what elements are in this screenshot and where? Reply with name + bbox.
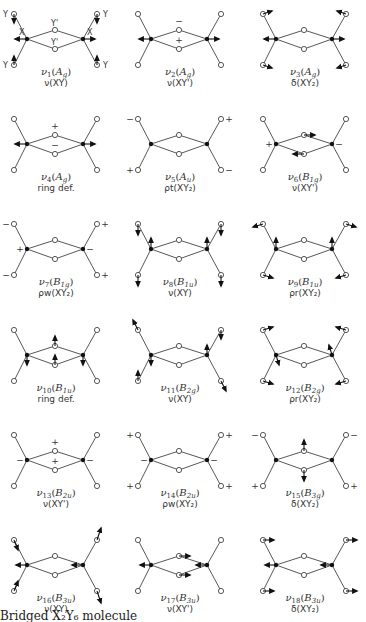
mode-description-label: ρr(XY₂)	[289, 288, 321, 298]
mode-cell-4: +−ν4(Ag)ring def.	[11, 116, 99, 193]
atom-label-x: X	[19, 28, 25, 37]
central-atom-x	[25, 247, 29, 251]
terminal-atom-y	[11, 378, 16, 383]
bond	[207, 144, 221, 170]
terminal-atom-y	[94, 483, 99, 488]
mode-cell-6: +−ν6(B1g)ν(XY')	[260, 116, 348, 193]
phase-sign: −	[350, 430, 358, 440]
bond	[179, 144, 207, 154]
bridge-atom-yprime	[176, 343, 181, 348]
bond	[207, 14, 221, 39]
bond	[304, 249, 332, 259]
phase-sign: −	[251, 430, 259, 440]
bridge-atom-yprime	[176, 256, 181, 261]
bond	[151, 144, 179, 154]
bond	[332, 224, 346, 249]
terminal-atom-y	[260, 432, 265, 437]
bond	[332, 355, 346, 381]
mode-description-label: ρw(XY₂)	[38, 288, 73, 298]
bond	[207, 119, 221, 144]
terminal-atom-y	[94, 327, 99, 332]
bond	[55, 346, 83, 355]
bond	[263, 540, 276, 565]
terminal-atom-y	[218, 537, 223, 542]
phase-sign: −	[16, 455, 24, 465]
mode-cell-11: ν11(B2g)ν(XY)	[133, 320, 226, 404]
bond	[207, 330, 221, 355]
bond	[83, 355, 97, 381]
mode-description-label: ν(XY')	[167, 604, 193, 614]
terminal-atom-y	[135, 432, 140, 437]
central-atom-x	[205, 458, 209, 462]
bridge-atom-yprime	[52, 237, 57, 242]
terminal-atom-y	[135, 537, 140, 542]
terminal-atom-y	[94, 116, 99, 121]
bridge-atom-yprime	[176, 448, 181, 453]
bridge-atom-yprime	[301, 343, 306, 348]
terminal-atom-y	[11, 116, 16, 121]
terminal-atom-y	[94, 167, 99, 172]
bond	[304, 30, 332, 39]
phase-sign: −	[175, 16, 183, 26]
bond	[138, 540, 151, 565]
bond	[27, 355, 55, 365]
bond	[207, 224, 221, 249]
bond	[55, 460, 83, 470]
phase-sign: −	[140, 455, 148, 465]
terminal-atom-y	[11, 588, 16, 593]
bond	[151, 556, 179, 565]
mode-cell-2: −+ν2(Ag)ν(XY')	[135, 11, 223, 88]
terminal-atom-y	[218, 483, 223, 488]
bridge-atom-yprime	[52, 132, 57, 137]
terminal-atom-y	[94, 378, 99, 383]
mode-cell-18: ν18(B3u)δ(XY₂)	[260, 537, 357, 614]
mode-cell-5: −++−ν5(Au)ρt(XY₂)	[126, 114, 233, 193]
bond	[138, 144, 151, 170]
bond	[179, 39, 207, 49]
phase-sign: −	[225, 165, 233, 175]
central-atom-x	[205, 142, 209, 146]
bond	[179, 460, 207, 470]
bond	[207, 249, 221, 275]
bridge-atom-yprime	[176, 151, 181, 156]
atom-label-y: Y	[102, 10, 108, 19]
bond	[55, 135, 83, 144]
bond	[55, 451, 83, 460]
bond	[83, 330, 97, 355]
bond	[55, 240, 83, 249]
mode-cell-7: −−+++−ν7(B1g)ρw(XY₂)	[2, 219, 109, 298]
terminal-atom-y	[218, 588, 223, 593]
terminal-atom-y	[135, 62, 140, 67]
phase-sign: +	[51, 437, 59, 447]
bridge-atom-yprime	[176, 132, 181, 137]
phase-sign: +	[225, 481, 233, 491]
bond	[179, 135, 207, 144]
bond	[263, 565, 276, 591]
bond	[304, 460, 332, 470]
terminal-atom-y	[11, 537, 16, 542]
mode-description-label: ρt(XY₂)	[164, 183, 196, 193]
bridge-atom-yprime	[52, 448, 57, 453]
bond	[304, 135, 332, 144]
bond	[304, 346, 332, 355]
terminal-atom-y	[11, 221, 16, 226]
terminal-atom-y	[260, 483, 265, 488]
bond	[276, 565, 304, 575]
mode-description-label: ν(XY')	[292, 183, 318, 193]
central-atom-x	[81, 247, 85, 251]
phase-sign: +	[16, 244, 24, 254]
bond	[276, 556, 304, 565]
terminal-atom-y	[94, 432, 99, 437]
bridge-atom-yprime	[301, 237, 306, 242]
phase-sign: +	[51, 456, 59, 466]
bond	[27, 565, 55, 575]
terminal-atom-y	[11, 327, 16, 332]
mode-cell-13: ++−−ν13(B2u)ν(XY')	[11, 432, 99, 509]
bond	[332, 540, 346, 565]
bond	[304, 451, 332, 460]
phase-sign: +	[101, 219, 109, 229]
bridge-atom-yprime	[301, 553, 306, 558]
terminal-atom-y	[94, 221, 99, 226]
phase-sign: −	[335, 139, 343, 149]
bond	[151, 249, 179, 259]
